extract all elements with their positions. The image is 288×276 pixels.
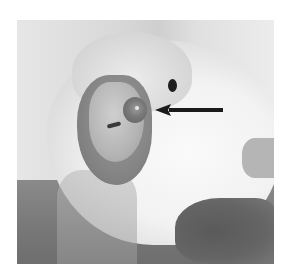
bird-eye xyxy=(168,79,177,92)
arrow-left-icon xyxy=(155,104,223,116)
dark-feather-patch xyxy=(175,198,274,264)
bird-photo xyxy=(17,20,274,264)
lesion xyxy=(123,97,147,123)
throat-shadow xyxy=(57,170,137,264)
lesion-highlight xyxy=(135,106,139,110)
wing-shadow xyxy=(242,138,274,178)
